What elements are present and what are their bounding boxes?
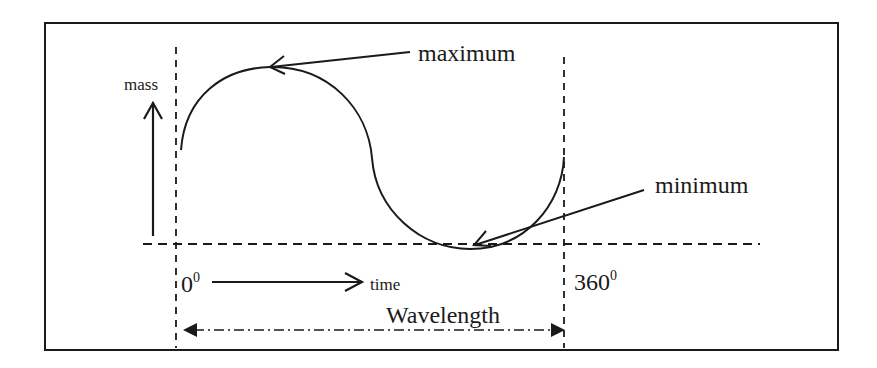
maximum-pointer-arrow-icon — [270, 52, 410, 74]
mass-label: mass — [124, 75, 158, 94]
wavelength-double-arrow-icon — [183, 323, 565, 337]
end-angle-label: 3600 — [574, 268, 617, 295]
wave-curve — [181, 67, 564, 249]
start-angle-label: 00 — [181, 270, 200, 297]
time-label: time — [370, 275, 400, 294]
wavelength-label: Wavelength — [386, 302, 500, 328]
maximum-label: maximum — [418, 40, 516, 66]
minimum-pointer-arrow-icon — [474, 190, 644, 246]
wave-diagram: mass maximum minimum 00 time 3600 Wavele… — [0, 0, 877, 368]
minimum-label: minimum — [655, 172, 749, 198]
time-axis-arrow-icon — [212, 273, 362, 291]
mass-axis-arrow-icon — [144, 103, 162, 236]
